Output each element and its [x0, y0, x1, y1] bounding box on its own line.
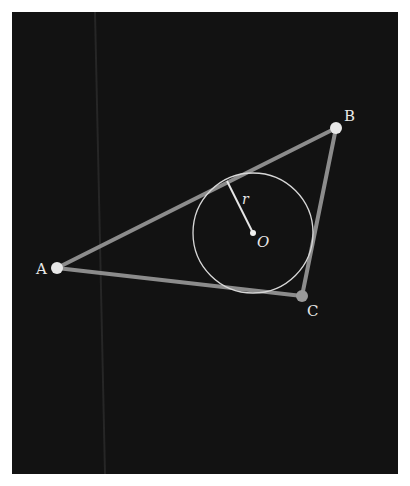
incenter-point	[250, 230, 256, 236]
incircle-diagram: A B C O r	[0, 0, 410, 486]
vertex-b-point	[330, 122, 342, 134]
vertex-a-point	[51, 262, 63, 274]
vertex-c-point	[296, 290, 308, 302]
vertex-b-label: B	[344, 107, 355, 125]
incenter-label: O	[257, 233, 269, 251]
dark-panel-background	[12, 12, 398, 474]
vertex-a-label: A	[35, 260, 47, 278]
vertex-c-label: C	[307, 302, 318, 320]
